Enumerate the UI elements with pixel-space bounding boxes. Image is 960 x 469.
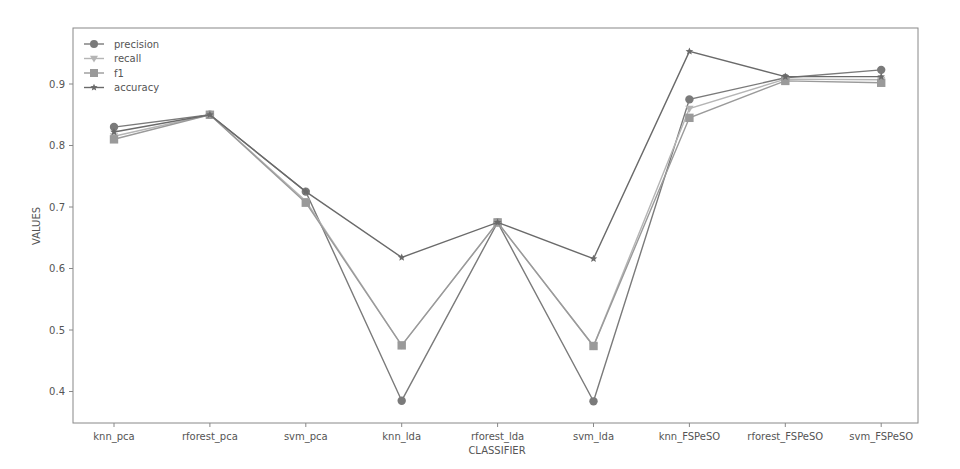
x-tick-label: svm_lda — [573, 431, 614, 443]
square-marker-icon — [877, 79, 885, 87]
circle-marker-icon — [398, 397, 406, 405]
legend-label: f1 — [114, 68, 124, 79]
y-tick-label: 0.6 — [49, 263, 65, 274]
x-tick-label: rforest_pca — [182, 431, 238, 443]
circle-marker-icon — [589, 397, 597, 405]
legend-label: precision — [114, 39, 159, 50]
legend-label: recall — [114, 53, 141, 64]
legend-label: accuracy — [114, 82, 159, 93]
x-tick-label: svm_FSPeSO — [849, 431, 913, 443]
y-tick-label: 0.8 — [49, 140, 65, 151]
y-tick-label: 0.9 — [49, 79, 65, 90]
square-marker-icon — [685, 114, 693, 122]
x-tick-label: rforest_FSPeSO — [747, 431, 823, 443]
y-axis: 0.40.50.60.70.80.9 — [49, 79, 73, 398]
square-marker-icon — [90, 69, 98, 77]
y-tick-label: 0.4 — [49, 386, 65, 397]
line-chart: 0.40.50.60.70.80.9 knn_pcarforest_pcasvm… — [0, 0, 960, 469]
y-tick-label: 0.5 — [49, 325, 65, 336]
x-tick-label: knn_lda — [382, 431, 421, 443]
square-marker-icon — [110, 135, 118, 143]
x-tick-label: knn_FSPeSO — [659, 431, 721, 443]
y-axis-label: VALUES — [31, 207, 42, 245]
square-marker-icon — [302, 198, 310, 206]
circle-marker-icon — [685, 95, 693, 103]
square-marker-icon — [589, 342, 597, 350]
x-axis-label: CLASSIFIER — [468, 445, 525, 456]
x-tick-label: knn_pca — [93, 431, 134, 443]
x-tick-label: svm_pca — [284, 431, 328, 443]
x-tick-label: rforest_lda — [471, 431, 524, 443]
y-tick-label: 0.7 — [49, 202, 65, 213]
square-marker-icon — [398, 341, 406, 349]
circle-marker-icon — [90, 40, 98, 48]
x-axis: knn_pcarforest_pcasvm_pcaknn_ldarforest_… — [93, 423, 913, 443]
